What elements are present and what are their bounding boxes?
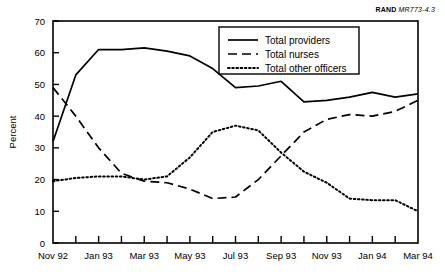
y-tick-label: 70 [34, 16, 45, 27]
x-tick-label: Jan 94 [358, 250, 387, 261]
legend-label: Total nurses [265, 49, 319, 60]
y-tick-label: 30 [34, 142, 45, 153]
y-tick-label: 40 [34, 111, 45, 122]
y-tick-label: 20 [34, 174, 45, 185]
y-tick-label: 10 [34, 206, 45, 217]
line-chart: 010203040506070 Nov 92Jan 93Mar 93May 93… [0, 0, 445, 278]
series-line [53, 126, 418, 212]
y-axis-title: Percent [7, 115, 18, 148]
x-tick-label: Sep 93 [266, 250, 296, 261]
x-axis-ticks [76, 236, 395, 243]
x-tick-label: Nov 93 [312, 250, 342, 261]
y-tick-label: 60 [34, 47, 45, 58]
x-tick-label: May 93 [174, 250, 205, 261]
y-tick-label: 0 [40, 238, 45, 249]
x-axis-tick-labels: Nov 92Jan 93Mar 93May 93Jul 93Sep 93Nov … [38, 250, 433, 261]
y-tick-label: 50 [34, 79, 45, 90]
chart-figure: RAND MR773-4.3 010203040506070 Nov 92Jan… [0, 0, 445, 278]
x-tick-label: Mar 93 [129, 250, 159, 261]
legend-label: Total other officers [265, 63, 347, 74]
x-tick-label: Jan 93 [84, 250, 113, 261]
x-tick-label: Jul 93 [223, 250, 248, 261]
x-tick-label: Nov 92 [38, 250, 68, 261]
series-line [53, 88, 418, 199]
y-axis-tick-labels: 010203040506070 [34, 16, 45, 249]
chart-legend: Total providersTotal nursesTotal other o… [219, 27, 359, 74]
x-tick-label: Mar 94 [403, 250, 433, 261]
legend-label: Total providers [265, 35, 330, 46]
